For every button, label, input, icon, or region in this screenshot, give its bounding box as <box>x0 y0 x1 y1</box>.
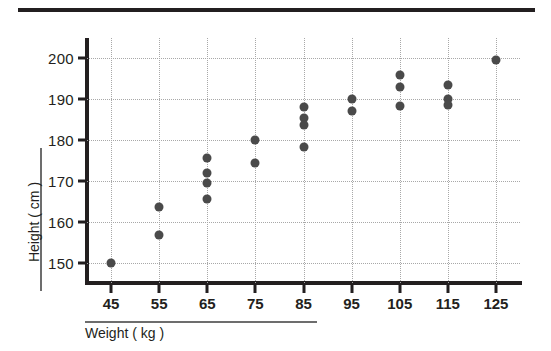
x-tick-115 <box>446 285 449 293</box>
scatter-plot-figure: 150160170180190200 455565758595105115125… <box>0 0 551 351</box>
x-axis-title: Weight ( kg ) <box>85 325 164 341</box>
data-point <box>443 101 452 110</box>
data-point <box>491 56 500 65</box>
x-tick-label-85: 85 <box>280 295 328 312</box>
data-point <box>251 159 260 168</box>
gridline-x-115 <box>448 38 449 283</box>
y-tick-160 <box>78 220 85 223</box>
x-tick-45 <box>110 285 113 293</box>
data-point <box>299 120 308 129</box>
data-point <box>395 102 404 111</box>
gridline-x-45 <box>111 38 112 283</box>
data-point <box>347 106 356 115</box>
x-tick-label-95: 95 <box>328 295 376 312</box>
data-point <box>155 203 164 212</box>
y-tick-180 <box>78 139 85 142</box>
x-tick-label-105: 105 <box>376 295 424 312</box>
x-tick-65 <box>206 285 209 293</box>
x-tick-label-65: 65 <box>183 295 231 312</box>
gridline-x-125 <box>496 38 497 283</box>
gridline-x-55 <box>159 38 160 283</box>
data-point <box>107 258 116 267</box>
data-point <box>203 178 212 187</box>
data-point <box>203 195 212 204</box>
data-point <box>347 95 356 104</box>
y-tick-label-190: 190 <box>34 91 74 108</box>
x-tick-85 <box>302 285 305 293</box>
x-axis-title-rule <box>85 321 317 323</box>
y-tick-170 <box>78 179 85 182</box>
data-point <box>395 70 404 79</box>
y-tick-label-200: 200 <box>34 50 74 67</box>
data-point <box>155 231 164 240</box>
x-tick-105 <box>398 285 401 293</box>
x-tick-95 <box>350 285 353 293</box>
x-tick-75 <box>254 285 257 293</box>
data-point <box>203 154 212 163</box>
x-tick-55 <box>158 285 161 293</box>
gridline-x-95 <box>352 38 353 283</box>
data-point <box>251 136 260 145</box>
data-point <box>203 168 212 177</box>
data-point <box>299 143 308 152</box>
x-tick-label-55: 55 <box>135 295 183 312</box>
x-tick-125 <box>494 285 497 293</box>
y-tick-200 <box>78 57 85 60</box>
gridline-x-85 <box>304 38 305 283</box>
data-point <box>395 83 404 92</box>
y-tick-190 <box>78 98 85 101</box>
data-point <box>443 80 452 89</box>
plot-area <box>87 38 520 283</box>
top-divider-rule <box>18 8 535 12</box>
x-tick-label-115: 115 <box>424 295 472 312</box>
x-tick-label-125: 125 <box>472 295 520 312</box>
x-tick-label-45: 45 <box>87 295 135 312</box>
y-tick-150 <box>78 261 85 264</box>
x-tick-label-75: 75 <box>231 295 279 312</box>
data-point <box>299 103 308 112</box>
y-axis-title: Height ( cm ) <box>26 147 42 297</box>
